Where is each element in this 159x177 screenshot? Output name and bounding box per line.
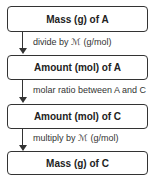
arrow-3 [22,129,23,146]
step-label-multiply: multiply by ℳ (g/mol) [33,133,119,143]
box-amount-a: Amount (mol) of A [7,55,148,80]
box-label: Amount (mol) of C [34,111,121,122]
arrowhead-2 [19,97,27,103]
box-label: Amount (mol) of A [34,62,121,73]
arrow-1 [22,32,23,49]
step-label-divide: divide by ℳ (g/mol) [33,37,112,47]
arrow-2 [22,80,23,98]
step-label-ratio: molar ratio between A and C [33,85,146,95]
box-amount-c: Amount (mol) of C [7,104,148,129]
box-label: Mass (g) of A [46,14,108,25]
box-mass-a: Mass (g) of A [7,6,148,32]
arrowhead-1 [19,48,27,54]
box-label: Mass (g) of C [46,158,109,169]
box-mass-c: Mass (g) of C [7,151,148,175]
